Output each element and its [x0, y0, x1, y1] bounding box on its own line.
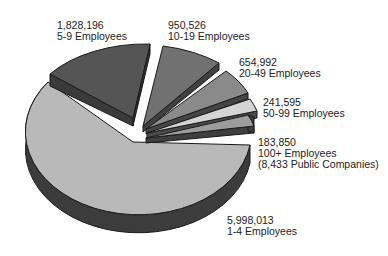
label-20-49-employees: 654,992 20-49 Employees: [239, 57, 321, 79]
slice-name: 20-49 Employees: [239, 68, 321, 79]
label-10-19-employees: 950,526 10-19 Employees: [168, 20, 250, 42]
slice-name: 10-19 Employees: [168, 31, 250, 42]
slice-name: 5-9 Employees: [57, 31, 127, 42]
label-1-4-employees: 5,998,013 1-4 Employees: [227, 215, 297, 237]
slice-note: (8,433 Public Companies): [258, 159, 379, 170]
label-50-99-employees: 241,595 50-99 Employees: [263, 97, 345, 119]
label-100plus-employees: 183,850 100+ Employees (8,433 Public Com…: [258, 137, 379, 170]
slice-name: 1-4 Employees: [227, 226, 297, 237]
label-5-9-employees: 1,828,196 5-9 Employees: [57, 20, 127, 42]
slice-name: 50-99 Employees: [263, 108, 345, 119]
